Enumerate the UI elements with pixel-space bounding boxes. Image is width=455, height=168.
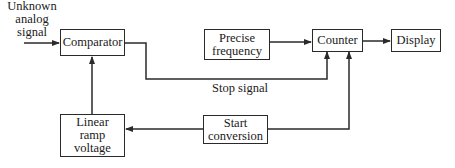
linear-ramp-voltage-block: Linear ramp voltage bbox=[60, 114, 125, 157]
precise-frequency-block: Precise frequency bbox=[204, 29, 270, 60]
counter-block: Counter bbox=[312, 29, 363, 52]
display-block: Display bbox=[391, 29, 441, 52]
stop-signal-label: Stop signal bbox=[205, 82, 275, 95]
input-signal-label: Unknown analog signal bbox=[4, 0, 60, 39]
start-to-counter-wire bbox=[268, 52, 349, 129]
comparator-block: Comparator bbox=[60, 29, 125, 56]
start-conversion-block: Start conversion bbox=[203, 115, 268, 144]
